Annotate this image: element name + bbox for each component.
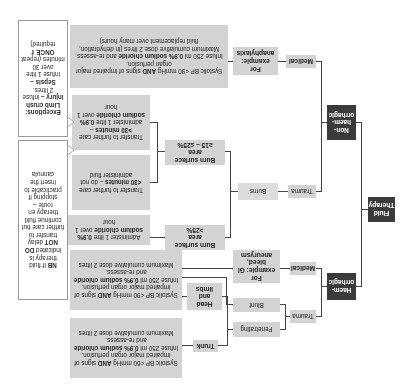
- head-and-limbs-node: Head and limbs: [187, 283, 222, 310]
- non-haem-label-1: Non-: [334, 126, 349, 134]
- connector: [157, 122, 158, 183]
- connector: [316, 268, 322, 269]
- connector: [278, 191, 288, 192]
- connector: [322, 122, 327, 123]
- burn-over-25-node: Burn surface area >25%: [165, 225, 225, 250]
- anaphylaxis-text: For example: anaphylaxis: [236, 49, 275, 72]
- haem-instructions-90: Systolic BP <90 mmHg AND signs of impair…: [70, 250, 182, 310]
- connector: [316, 191, 322, 192]
- connector: [227, 296, 228, 346]
- transfer-under-30-box: Transfer to further care <30 minutes – d…: [72, 155, 150, 210]
- fluid-therapy-flowchart: Fluid Therapy Non- haem- orrhagic Medica…: [0, 0, 414, 385]
- connector: [321, 61, 322, 192]
- medical-label: Medical: [289, 58, 313, 66]
- connector: [280, 304, 286, 305]
- connector: [182, 345, 193, 346]
- connector: [230, 151, 231, 238]
- connector: [316, 61, 322, 62]
- connector: [322, 286, 327, 287]
- root-label: Fluid Therapy: [369, 202, 395, 218]
- connector: [150, 237, 165, 238]
- connector: [225, 237, 231, 238]
- connector: [356, 286, 362, 287]
- connector: [278, 61, 286, 62]
- connector: [356, 122, 362, 123]
- non-haem-medical-instructions: Systolic BP <90 mmHg AND signs of impair…: [70, 25, 228, 88]
- burns-label: Burns: [250, 188, 266, 195]
- connector: [286, 316, 290, 317]
- instruction-line-3: Maximum cumulative dose 2 litres (in deh…: [73, 38, 225, 53]
- haem-label-1: Haem-: [332, 287, 352, 295]
- connector: [280, 268, 290, 269]
- nb-callout-pointer: [66, 145, 74, 155]
- administer-1-litre-box: Administer 1 litre 0.9% sodium chloride …: [68, 215, 150, 245]
- connector: [316, 316, 322, 317]
- anaphylaxis-example: For example: anaphylaxis: [233, 47, 278, 75]
- connector: [285, 304, 286, 330]
- non-haemorrhagic-node: Non- haem- orrhagic: [327, 105, 356, 140]
- gi-bleed-example: For example: GI bleed, aneurysm: [233, 250, 280, 283]
- connector: [182, 268, 233, 269]
- connector: [218, 345, 228, 346]
- connector: [228, 329, 233, 330]
- connector: [362, 209, 368, 210]
- connector: [225, 151, 231, 152]
- connector: [361, 122, 362, 287]
- haem-medical-node: Medical: [290, 262, 316, 275]
- burns-node: Burns: [238, 183, 278, 200]
- connector: [231, 191, 238, 192]
- instruction-line-1: Systolic BP <90 mmHg AND signs of impair…: [73, 60, 225, 75]
- connector: [182, 277, 227, 278]
- burn-15-25-node: Burn surface area ≥15 – ≤25%: [165, 140, 225, 165]
- non-haem-trauma-node: Trauma: [288, 185, 316, 198]
- trauma-label: Trauma: [291, 188, 312, 195]
- root-fluid-therapy: Fluid Therapy: [368, 197, 395, 222]
- connector: [182, 296, 187, 297]
- connector: [150, 122, 158, 123]
- blunt-node: Blunt: [233, 298, 280, 312]
- non-haem-label-3: orrhagic: [329, 111, 355, 119]
- connector: [222, 296, 228, 297]
- connector: [158, 151, 165, 152]
- exceptions-callout-pointer: [66, 117, 74, 127]
- haem-label-2: orrhagic: [329, 279, 355, 287]
- transfer-over-30-box: Transfer to further care >30 minutes – a…: [72, 95, 150, 150]
- non-haem-medical-node: Medical: [286, 55, 316, 68]
- trunk-node: Trunk: [193, 340, 218, 352]
- penetrating-node: Penetrating: [233, 322, 280, 337]
- connector: [228, 61, 233, 62]
- connector: [280, 329, 286, 330]
- nb-callout: NB If fluid therapy is indicated DO NOT …: [18, 140, 68, 300]
- exceptions-callout: Exceptions: Limb crush injury – infuse 2…: [18, 20, 68, 137]
- connector: [321, 268, 322, 317]
- haemorrhagic-node: Haem- orrhagic: [327, 273, 356, 300]
- non-haem-label-2: haem-: [332, 119, 351, 127]
- haem-instructions-60: Systolic BP <60 mmHg AND signs of impair…: [70, 318, 182, 378]
- haem-trauma-node: Trauma: [290, 310, 316, 323]
- connector: [150, 182, 158, 183]
- instruction-line-2: Infuse 250 ml 0.9% sodium chloride and r…: [75, 53, 222, 60]
